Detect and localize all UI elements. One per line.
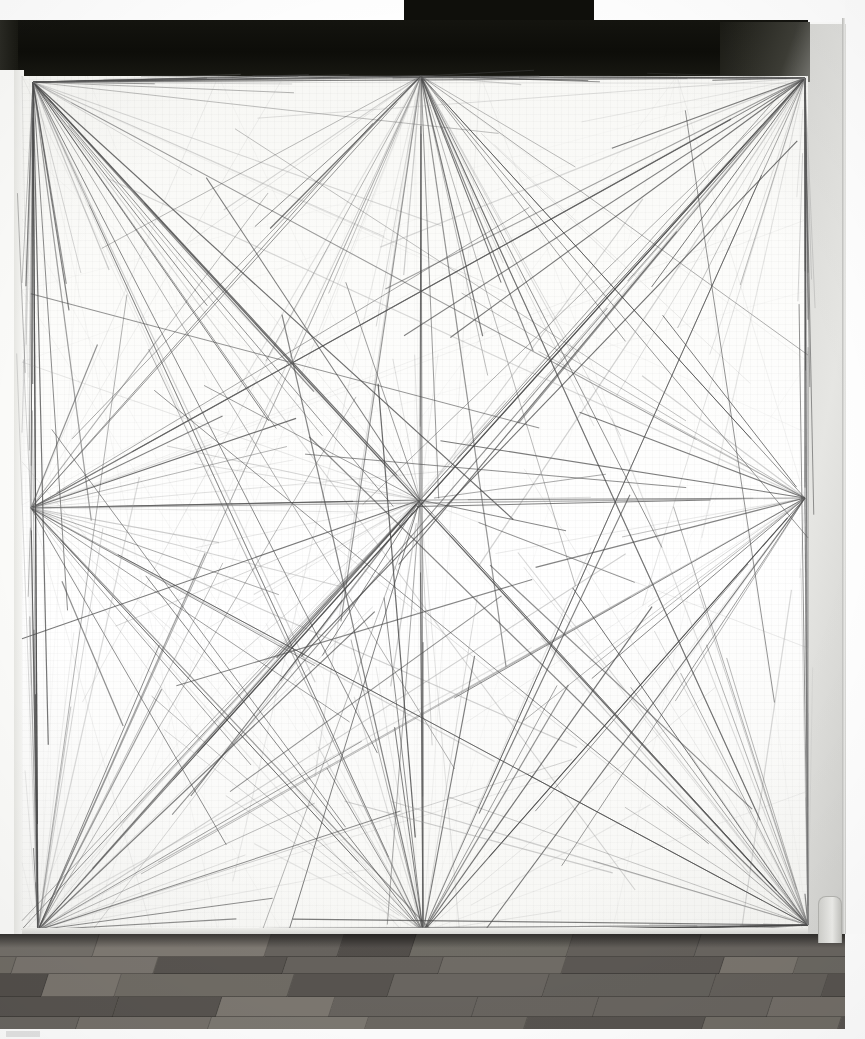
floor-plank <box>561 957 725 974</box>
floor-planks <box>0 934 845 1029</box>
floor-plank <box>767 997 845 1017</box>
floor-plank <box>700 1017 842 1029</box>
floor-plank <box>74 1017 212 1029</box>
photograph <box>0 0 865 1039</box>
floor-plank <box>793 957 845 974</box>
floor-plank <box>114 974 294 997</box>
floor-plank <box>542 974 716 997</box>
floor-plank <box>0 997 119 1017</box>
floor-plank <box>522 1017 706 1029</box>
floor-plank <box>709 974 828 997</box>
floor-plank <box>282 957 444 974</box>
image-bottom-white-margin <box>0 1029 865 1039</box>
floor-plank <box>363 1017 528 1029</box>
floor-plank <box>472 997 599 1017</box>
corner-object <box>818 896 842 943</box>
floor-wall-shadow <box>0 934 845 948</box>
gallery-room <box>0 0 865 1039</box>
wood-floor <box>0 934 845 1029</box>
floor-plank <box>113 997 222 1017</box>
floor-plank <box>216 997 335 1017</box>
floor-plank <box>329 997 478 1017</box>
floor-plank <box>0 1017 80 1029</box>
floor-plank <box>11 957 159 974</box>
floor-plank <box>438 957 567 974</box>
wall-drawing-lines <box>0 0 865 1039</box>
floor-plank <box>41 974 121 997</box>
floor-plank <box>287 974 394 997</box>
floor-plank <box>206 1017 369 1029</box>
floor-plank <box>719 957 799 974</box>
scan-edge-mark <box>6 1031 40 1037</box>
floor-plank <box>593 997 773 1017</box>
floor-plank <box>153 957 288 974</box>
floor-plank <box>387 974 549 997</box>
floor-right-white-margin <box>845 934 865 1039</box>
